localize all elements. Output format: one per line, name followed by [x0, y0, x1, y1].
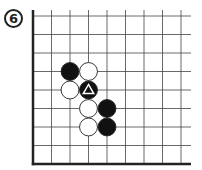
go-diagram: 6: [0, 0, 202, 170]
stones-layer: [61, 63, 116, 136]
stone-circle: [80, 63, 98, 81]
white-stone: [80, 118, 98, 136]
white-stone: [61, 81, 79, 99]
black-stone: [98, 118, 116, 136]
black-stone: [61, 63, 79, 81]
go-board: [0, 0, 202, 170]
black-stone: [98, 100, 116, 118]
stone-circle: [98, 118, 116, 136]
white-stone: [80, 63, 98, 81]
stone-circle: [61, 81, 79, 99]
black-stone: [80, 81, 98, 99]
stone-circle: [80, 100, 98, 118]
stone-circle: [61, 63, 79, 81]
white-stone: [80, 100, 98, 118]
board-grid: [32, 10, 191, 165]
stone-circle: [80, 118, 98, 136]
stone-circle: [98, 100, 116, 118]
